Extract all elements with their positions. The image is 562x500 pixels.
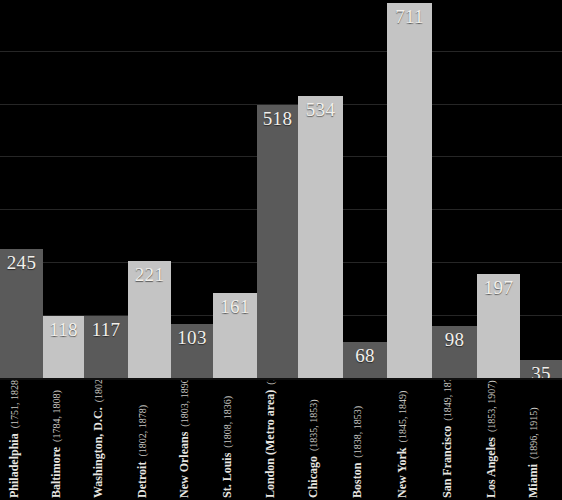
- x-tick-label-inner: London (Metro area)(1809, 1850): [264, 380, 277, 498]
- bar[interactable]: 534: [298, 96, 343, 378]
- bar-value-label: 197: [477, 277, 520, 298]
- x-tick-years: (1853, 1907): [485, 380, 498, 432]
- bar-value-label: 245: [0, 252, 43, 273]
- x-tick-city: Philadelphia: [8, 433, 21, 498]
- bar[interactable]: 35: [520, 360, 562, 378]
- x-tick-years: (1838, 1853): [351, 406, 364, 458]
- bar-value-label: 221: [128, 264, 171, 285]
- x-tick-label-inner: Philadelphia(1751, 1828): [8, 380, 21, 498]
- x-tick-city: New York: [396, 447, 409, 498]
- x-tick-city: Miami: [527, 464, 540, 498]
- x-tick-city: Detroit: [136, 462, 149, 498]
- x-tick-city: New Orleans: [178, 432, 191, 498]
- x-tick-years: (1896, 1915): [527, 407, 540, 459]
- gridline: [0, 51, 562, 52]
- x-tick-years: (1784, 1808): [50, 390, 63, 442]
- x-tick-years: (1808, 1836): [221, 396, 234, 448]
- x-tick-label-inner: St. Louis(1808, 1836): [221, 396, 234, 498]
- x-tick-label-inner: Chicago(1835, 1853): [307, 399, 320, 498]
- bar[interactable]: 118: [43, 316, 84, 378]
- bar-value-label: 103: [171, 327, 213, 348]
- x-tick-years: (1802, 1873): [92, 380, 105, 402]
- x-tick-city: San Francisco: [441, 426, 454, 498]
- bar-value-label: 161: [213, 296, 257, 317]
- x-tick-city: St. Louis: [221, 453, 234, 498]
- x-tick-label-inner: New York(1845, 1849): [396, 391, 409, 498]
- x-tick-label-inner: San Francisco(1849, 1878): [441, 380, 454, 498]
- x-tick-label-inner: Detroit(1802, 1878): [136, 405, 149, 498]
- x-tick-label-inner: New Orleans(1803, 1890): [178, 380, 191, 498]
- bar-chart: 245118117221103161518534687119819735 Phi…: [0, 0, 562, 500]
- bar-value-label: 534: [298, 99, 343, 120]
- x-tick-label-inner: Washington, D.C.(1802, 1873): [92, 380, 105, 498]
- x-tick-city: Boston: [351, 463, 364, 498]
- bar[interactable]: 221: [128, 261, 171, 378]
- x-tick-years: (1849, 1878): [441, 380, 454, 421]
- bar-value-label: 98: [432, 329, 477, 350]
- x-tick-city: Baltimore: [50, 447, 63, 498]
- x-tick-city: Washington, D.C.: [92, 407, 105, 498]
- bar-value-label: 518: [257, 108, 298, 129]
- x-tick-city: Chicago: [307, 456, 320, 498]
- plot-area: 245118117221103161518534687119819735: [0, 0, 562, 380]
- x-tick-label-inner: Miami(1896, 1915): [527, 407, 540, 498]
- x-tick-years: (1845, 1849): [396, 391, 409, 443]
- x-tick-years: (1809, 1850): [264, 380, 277, 385]
- x-tick-label-inner: Boston(1838, 1853): [351, 406, 364, 498]
- x-tick-city: Los Angeles: [485, 437, 498, 498]
- bar[interactable]: 711: [387, 3, 432, 378]
- x-tick-label-inner: Baltimore(1784, 1808): [50, 390, 63, 498]
- x-tick-city: London (Metro area): [264, 390, 277, 498]
- bar[interactable]: 518: [257, 105, 298, 378]
- bar-value-label: 711: [387, 6, 432, 27]
- bar[interactable]: 161: [213, 293, 257, 378]
- x-tick-years: (1751, 1828): [8, 380, 21, 428]
- bar[interactable]: 98: [432, 326, 477, 378]
- bar-value-label: 118: [43, 319, 84, 340]
- x-tick-years: (1835, 1853): [307, 399, 320, 451]
- x-tick-label-inner: Los Angeles(1853, 1907): [485, 380, 498, 498]
- bar[interactable]: 68: [343, 342, 387, 378]
- bar[interactable]: 103: [171, 324, 213, 378]
- x-tick-years: (1803, 1890): [178, 380, 191, 427]
- bar[interactable]: 117: [84, 316, 128, 378]
- x-tick-years: (1802, 1878): [136, 405, 149, 457]
- bar-value-label: 68: [343, 345, 387, 366]
- bar[interactable]: 197: [477, 274, 520, 378]
- bar[interactable]: 245: [0, 249, 43, 378]
- x-axis-labels: Philadelphia(1751, 1828)Baltimore(1784, …: [0, 380, 562, 500]
- bar-value-label: 117: [84, 319, 128, 340]
